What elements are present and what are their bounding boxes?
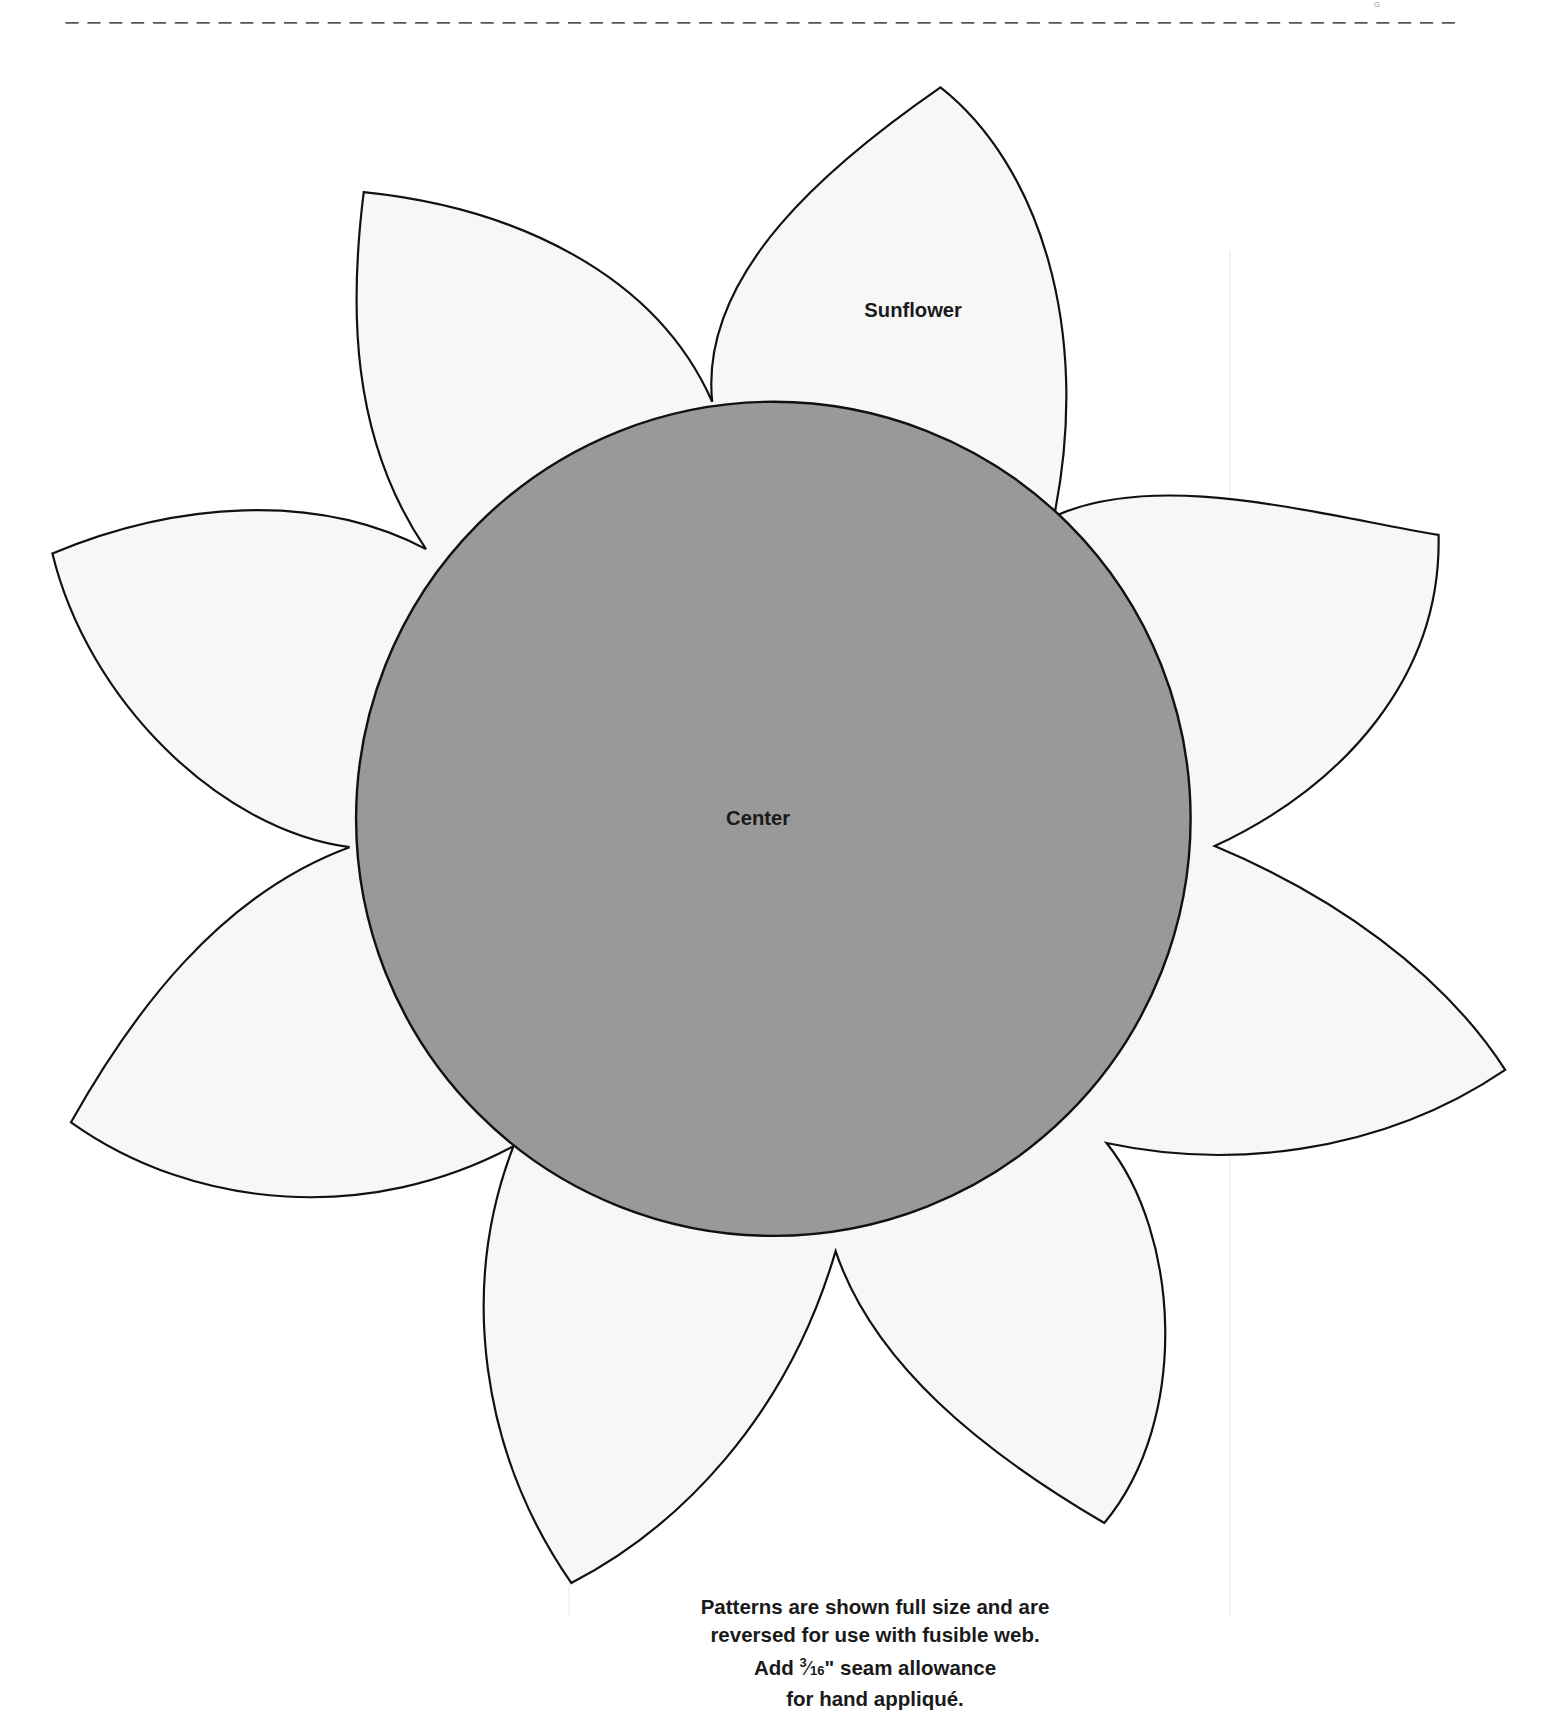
fraction-numerator: 3	[799, 1655, 806, 1670]
instructions-line-1: Patterns are shown full size and are	[640, 1593, 1110, 1621]
pattern-title: Sunflower	[864, 299, 962, 321]
center-label: Center	[726, 807, 790, 829]
sunflower-pattern-figure: G Sunflower Center	[0, 0, 1562, 1714]
instructions-line-3-suffix: " seam allowance	[825, 1656, 997, 1679]
instructions-line-3: Add 3⁄16" seam allowance	[640, 1649, 1110, 1685]
pattern-page: G Sunflower Center Patterns are shown fu…	[0, 0, 1562, 1714]
instructions-line-2: reversed for use with fusible web.	[640, 1621, 1110, 1649]
instructions-line-3-prefix: Add	[754, 1656, 794, 1679]
page-mark: G	[1374, 0, 1380, 9]
fraction-denominator: 16	[810, 1663, 824, 1678]
instructions-line-4: for hand appliqué.	[640, 1685, 1110, 1713]
instructions-note: Patterns are shown full size and are rev…	[640, 1593, 1110, 1713]
